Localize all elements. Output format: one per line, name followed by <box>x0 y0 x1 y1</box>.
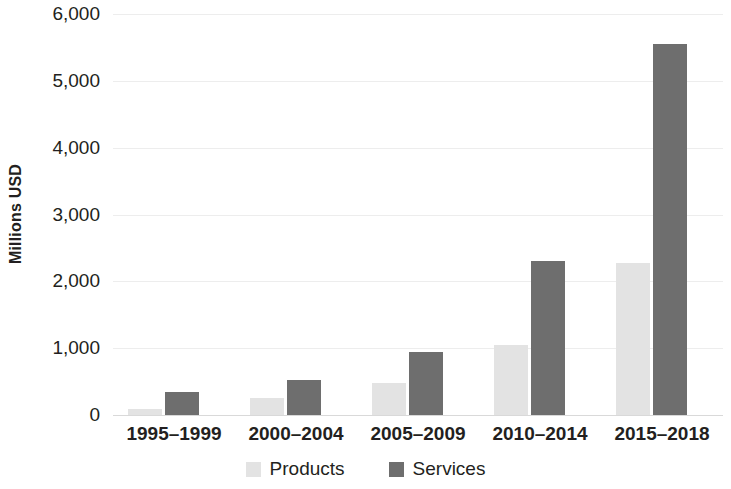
x-axis-tick-label: 1995–1999 <box>113 423 235 445</box>
bar-products <box>128 409 162 415</box>
bar-products <box>616 263 650 415</box>
y-axis-tick-labels: 01,0002,0003,0004,0005,0006,000 <box>28 0 100 489</box>
x-axis-tick-label: 2010–2014 <box>479 423 601 445</box>
bar-group <box>357 14 479 415</box>
bar-products <box>250 398 284 415</box>
y-axis-tick-label: 2,000 <box>28 270 100 292</box>
y-axis-tick-label: 1,000 <box>28 337 100 359</box>
bar-chart: Millions USD 01,0002,0003,0004,0005,0006… <box>0 0 731 489</box>
legend-swatch-icon <box>246 462 261 477</box>
legend-label: Products <box>270 458 345 480</box>
bar-group <box>235 14 357 415</box>
legend-swatch-icon <box>389 462 404 477</box>
bar-services <box>653 44 687 415</box>
bar-group <box>601 14 723 415</box>
x-axis-tick-label: 2005–2009 <box>357 423 479 445</box>
x-axis-tick-labels: 1995–19992000–20042005–20092010–20142015… <box>113 423 723 451</box>
bar-services <box>531 261 565 415</box>
legend-label: Services <box>413 458 486 480</box>
x-axis-tick-label: 2015–2018 <box>601 423 723 445</box>
y-axis-tick-label: 3,000 <box>28 204 100 226</box>
bar-services <box>287 380 321 415</box>
y-axis-tick-label: 5,000 <box>28 70 100 92</box>
bar-services <box>165 392 199 415</box>
y-axis-tick-label: 4,000 <box>28 137 100 159</box>
bar-products <box>494 345 528 415</box>
bar-group <box>113 14 235 415</box>
bar-group <box>479 14 601 415</box>
legend-item-services: Services <box>389 458 486 480</box>
bar-services <box>409 352 443 415</box>
y-axis-tick-label: 0 <box>28 404 100 426</box>
y-axis-title: Millions USD <box>7 134 25 294</box>
bars-layer <box>113 14 723 415</box>
bar-products <box>372 383 406 415</box>
x-axis-tick-label: 2000–2004 <box>235 423 357 445</box>
legend-item-products: Products <box>246 458 345 480</box>
gridline <box>113 415 723 416</box>
y-axis-tick-label: 6,000 <box>28 3 100 25</box>
plot-area <box>113 14 723 415</box>
chart-legend: ProductsServices <box>0 458 731 480</box>
